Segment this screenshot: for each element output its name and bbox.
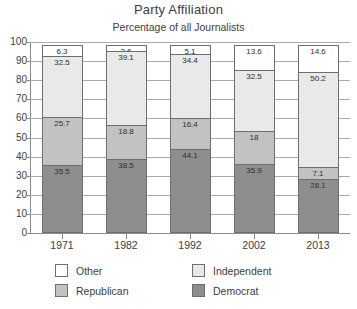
x-tick-label-2013: 2013 xyxy=(288,239,348,251)
plot-area: 6.332.525.735.53.639.118.838.55.134.416.… xyxy=(30,42,350,234)
chart-title: Party Affiliation xyxy=(0,2,357,17)
y-tick-mark-20 xyxy=(26,195,30,196)
bar-segment-value-label: 35.5 xyxy=(43,167,82,176)
legend-swatch-other xyxy=(55,264,68,277)
legend-swatch-republican xyxy=(55,284,68,297)
legend-item-democrat[interactable]: Democrat xyxy=(192,284,259,297)
bar-segment-1992-democrat[interactable]: 44.1 xyxy=(170,149,211,233)
y-tick-mark-90 xyxy=(26,61,30,62)
x-tick-label-2002: 2002 xyxy=(224,239,284,251)
y-tick-label-90: 90 xyxy=(3,56,27,66)
bar-segment-2002-other[interactable]: 13.6 xyxy=(234,45,275,71)
bar-segment-2013-other[interactable]: 14.6 xyxy=(298,45,339,73)
bar-segment-value-label: 25.7 xyxy=(43,119,82,128)
bar-segment-value-label: 14.6 xyxy=(299,47,338,56)
y-tick-mark-0 xyxy=(26,233,30,234)
bar-segment-1992-independent[interactable]: 34.4 xyxy=(170,54,211,120)
y-tick-mark-60 xyxy=(26,118,30,119)
y-tick-mark-80 xyxy=(26,80,30,81)
legend-swatch-independent xyxy=(192,264,205,277)
bar-segment-value-label: 50.2 xyxy=(299,74,338,83)
bar-segment-2002-independent[interactable]: 32.5 xyxy=(234,70,275,132)
bar-segment-value-label: 32.5 xyxy=(43,58,82,67)
chart-subtitle: Percentage of all Journalists xyxy=(0,21,357,33)
bar-segment-value-label: 35.9 xyxy=(235,166,274,175)
legend-label: Republican xyxy=(76,285,129,297)
bar-segment-value-label: 7.1 xyxy=(299,169,338,178)
legend-label: Other xyxy=(76,265,102,277)
y-tick-label-80: 80 xyxy=(3,75,27,85)
bar-segment-1982-democrat[interactable]: 38.5 xyxy=(106,159,147,233)
y-tick-label-100: 100 xyxy=(3,37,27,47)
bar-1982[interactable]: 3.639.118.838.5 xyxy=(106,45,147,233)
bar-segment-1982-independent[interactable]: 39.1 xyxy=(106,51,147,126)
bar-segment-2013-independent[interactable]: 50.2 xyxy=(298,72,339,168)
bar-segment-2002-republican[interactable]: 18 xyxy=(234,131,275,165)
y-tick-mark-10 xyxy=(26,214,30,215)
bar-1971[interactable]: 6.332.525.735.5 xyxy=(42,45,83,233)
bar-segment-2002-democrat[interactable]: 35.9 xyxy=(234,164,275,233)
bar-segment-value-label: 16.4 xyxy=(171,120,210,129)
x-tick-label-1982: 1982 xyxy=(96,239,156,251)
bar-segment-2013-republican[interactable]: 7.1 xyxy=(298,167,339,181)
x-tick-label-1971: 1971 xyxy=(32,239,92,251)
bar-segment-2013-democrat[interactable]: 28.1 xyxy=(298,179,339,233)
y-tick-mark-40 xyxy=(26,157,30,158)
bar-segment-1971-democrat[interactable]: 35.5 xyxy=(42,165,83,233)
y-tick-label-0: 0 xyxy=(3,228,27,238)
bar-segment-value-label: 34.4 xyxy=(171,56,210,65)
legend-label: Independent xyxy=(213,265,271,277)
legend-swatch-democrat xyxy=(192,284,205,297)
y-tick-mark-70 xyxy=(26,99,30,100)
bar-segment-value-label: 32.5 xyxy=(235,72,274,81)
y-tick-label-20: 20 xyxy=(3,190,27,200)
y-axis: 0102030405060708090100 xyxy=(0,42,27,234)
y-tick-label-60: 60 xyxy=(3,113,27,123)
bar-segment-value-label: 18 xyxy=(235,133,274,142)
bar-segment-value-label: 39.1 xyxy=(107,53,146,62)
bar-1992[interactable]: 5.134.416.444.1 xyxy=(170,45,211,233)
y-tick-mark-30 xyxy=(26,176,30,177)
bar-segment-value-label: 13.6 xyxy=(235,47,274,56)
bar-segment-value-label: 44.1 xyxy=(171,151,210,160)
bar-segment-value-label: 6.3 xyxy=(43,47,82,56)
x-tick-label-1992: 1992 xyxy=(160,239,220,251)
bar-segment-1992-republican[interactable]: 16.4 xyxy=(170,118,211,149)
legend-label: Democrat xyxy=(213,285,259,297)
y-tick-label-30: 30 xyxy=(3,171,27,181)
bar-segment-value-label: 28.1 xyxy=(299,181,338,190)
y-tick-mark-50 xyxy=(26,138,30,139)
bar-segment-1971-independent[interactable]: 32.5 xyxy=(42,56,83,118)
bar-segment-value-label: 38.5 xyxy=(107,161,146,170)
y-tick-label-70: 70 xyxy=(3,94,27,104)
chart-container: Party Affiliation Percentage of all Jour… xyxy=(0,0,357,309)
legend-item-independent[interactable]: Independent xyxy=(192,264,271,277)
y-tick-label-10: 10 xyxy=(3,209,27,219)
chart-legend: OtherIndependentRepublicanDemocrat xyxy=(40,264,320,304)
bar-2002[interactable]: 13.632.51835.9 xyxy=(234,45,275,233)
y-tick-label-40: 40 xyxy=(3,152,27,162)
bar-segment-value-label: 18.8 xyxy=(107,127,146,136)
bar-segment-1971-republican[interactable]: 25.7 xyxy=(42,117,83,166)
bar-2013[interactable]: 14.650.27.128.1 xyxy=(298,45,339,233)
y-tick-label-50: 50 xyxy=(3,133,27,143)
y-tick-mark-100 xyxy=(26,42,30,43)
gridline-100 xyxy=(30,42,350,43)
legend-item-republican[interactable]: Republican xyxy=(55,284,129,297)
bar-segment-1982-republican[interactable]: 18.8 xyxy=(106,125,147,161)
legend-item-other[interactable]: Other xyxy=(55,264,102,277)
